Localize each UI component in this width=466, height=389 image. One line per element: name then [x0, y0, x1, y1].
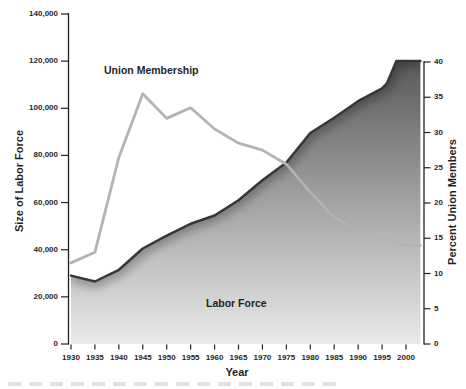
left-axis-tick-label: 20,000	[6, 292, 58, 302]
x-axis-title: Year	[225, 366, 248, 378]
labor-force-label: Labor Force	[206, 297, 267, 309]
left-axis-tick-label: 120,000	[6, 56, 58, 66]
right-axis-tick-label: 25	[434, 163, 443, 173]
x-axis-tick-label: 2000	[392, 353, 420, 363]
right-axis-tick-label: 40	[434, 57, 443, 67]
left-axis-tick-label: 140,000	[6, 9, 58, 19]
chart-svg	[0, 0, 466, 389]
right-axis-tick-label: 30	[434, 128, 443, 138]
x-axis	[71, 345, 406, 350]
right-axis-tick-label: 5	[434, 304, 438, 314]
left-axis-tick-label: 0	[6, 339, 58, 349]
left-axis-tick-label: 60,000	[6, 198, 58, 208]
right-axis-tick-label: 15	[434, 233, 443, 243]
right-axis-tick-label: 10	[434, 269, 443, 279]
left-axis	[61, 13, 69, 345]
cropped-caption-remnant	[8, 382, 340, 386]
left-axis-tick-label: 80,000	[6, 150, 58, 160]
right-axis-tick-label: 20	[434, 198, 443, 208]
right-axis-tick-label: 0	[434, 339, 438, 349]
union-membership-label: Union Membership	[104, 64, 199, 76]
right-axis	[424, 61, 431, 345]
left-axis-title: Size of Labor Force	[13, 130, 25, 232]
left-axis-tick-label: 100,000	[6, 103, 58, 113]
left-axis-tick-label: 40,000	[6, 245, 58, 255]
right-axis-title: Percent Union Members	[446, 139, 458, 265]
right-axis-tick-label: 35	[434, 92, 443, 102]
